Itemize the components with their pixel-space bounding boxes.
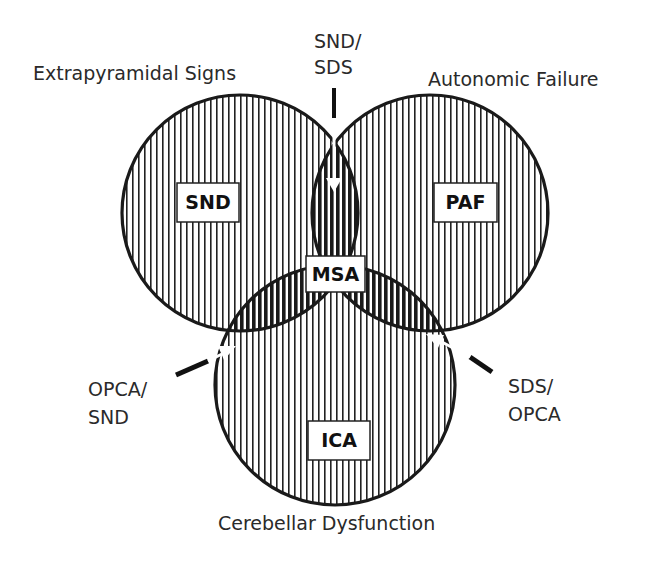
label-snd: SND [177, 183, 239, 222]
svg-text:ICA: ICA [321, 429, 357, 451]
overlap-label-snd-sds-line2: SDS [314, 56, 353, 78]
overlap-label-snd-sds-line1: SND/ [314, 30, 362, 52]
svg-text:PAF: PAF [446, 191, 486, 213]
overlap-label-sds-opca-line1: SDS/ [508, 375, 554, 397]
svg-text:SND: SND [185, 191, 230, 213]
caption-cerebellar-dysfunction: Cerebellar Dysfunction [218, 512, 435, 534]
label-ica: ICA [308, 421, 370, 460]
overlap-label-opca-snd-line2: SND [88, 406, 129, 428]
svg-text:MSA: MSA [312, 263, 360, 285]
overlap-label-opca-snd-line1: OPCA/ [88, 378, 148, 400]
label-msa: MSA [306, 256, 365, 292]
caption-autonomic-failure: Autonomic Failure [428, 68, 599, 90]
overlap-label-sds-opca-line2: OPCA [508, 403, 561, 425]
caption-extrapyramidal-signs: Extrapyramidal Signs [33, 62, 236, 84]
venn-diagram: SND PAF MSA ICA Extrapyramidal Signs Aut… [0, 0, 660, 566]
label-paf: PAF [434, 183, 497, 222]
